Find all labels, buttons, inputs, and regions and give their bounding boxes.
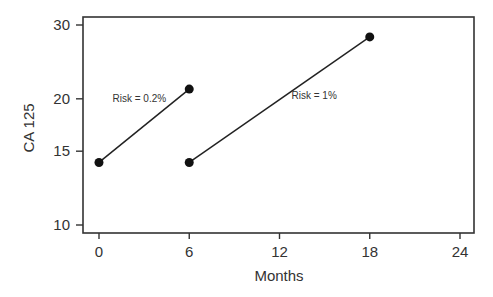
data-point bbox=[95, 158, 104, 167]
plot-frame bbox=[83, 17, 474, 233]
x-axis: 06121824 bbox=[95, 233, 469, 260]
x-tick-label: 24 bbox=[452, 243, 469, 260]
x-tick-label: 0 bbox=[95, 243, 103, 260]
data-point bbox=[185, 85, 194, 94]
x-tick-label: 12 bbox=[271, 243, 288, 260]
x-tick-label: 18 bbox=[361, 243, 378, 260]
y-axis-title: CA 125 bbox=[20, 103, 37, 152]
data-point bbox=[365, 32, 374, 41]
series-1: Risk = 0.2% bbox=[95, 85, 194, 167]
series-group: Risk = 0.2%Risk = 1% bbox=[95, 32, 375, 167]
x-tick-label: 6 bbox=[185, 243, 193, 260]
y-axis: 10152030 bbox=[53, 16, 83, 233]
x-axis-title: Months bbox=[254, 267, 303, 284]
data-point bbox=[185, 158, 194, 167]
y-tick-label: 30 bbox=[53, 16, 70, 33]
y-tick-label: 10 bbox=[53, 216, 70, 233]
series-2: Risk = 1% bbox=[185, 32, 375, 167]
risk-annotation: Risk = 1% bbox=[292, 90, 337, 101]
chart: 10152030 06121824 Risk = 0.2%Risk = 1% M… bbox=[0, 0, 493, 297]
risk-annotation: Risk = 0.2% bbox=[113, 93, 167, 104]
series-line bbox=[189, 37, 370, 163]
y-tick-label: 15 bbox=[53, 142, 70, 159]
y-tick-label: 20 bbox=[53, 90, 70, 107]
